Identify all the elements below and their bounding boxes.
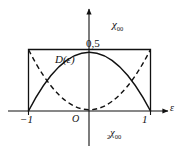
solid-curve-label-subscript: 00 [117, 25, 124, 32]
level-label-half: 0,5 [86, 38, 100, 49]
distribution-label: D(ε) [55, 54, 75, 65]
solid-curve-label: χ00 [112, 19, 123, 33]
figure-container: χ00 2χ00 0,5 D(ε) −1 O 1 ε [0, 0, 184, 154]
origin-label: O [72, 114, 79, 124]
x-axis-label: ε [170, 103, 174, 113]
x-tick-label-minus-one: −1 [20, 114, 33, 125]
x-tick-label-one: 1 [142, 114, 148, 125]
plot-canvas [0, 0, 184, 154]
dashed-curve-label: 2χ00 [107, 128, 121, 141]
dashed-curve-label-subscript: 00 [115, 133, 122, 140]
